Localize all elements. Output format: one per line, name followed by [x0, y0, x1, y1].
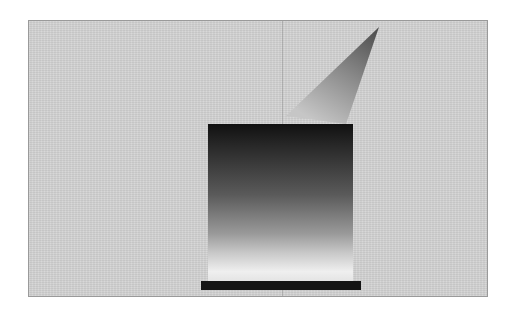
- figure-panel: [28, 20, 488, 297]
- gradient-box: [208, 124, 353, 281]
- base-bar: [201, 281, 361, 290]
